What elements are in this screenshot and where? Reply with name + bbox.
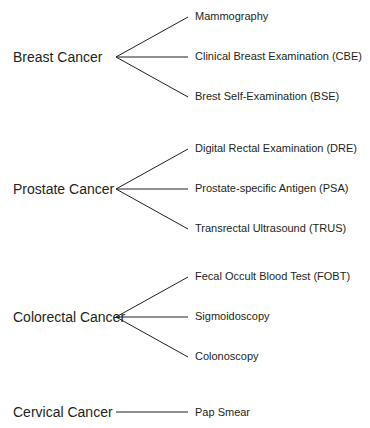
test-label: Clinical Breast Examination (CBE) — [195, 50, 362, 63]
category-label: Breast Cancer — [13, 49, 102, 65]
test-label: Digital Rectal Examination (DRE) — [195, 142, 357, 155]
category-label: Colorectal Cancer — [13, 309, 125, 325]
test-label: Mammography — [195, 10, 268, 23]
test-label: Prostate-specific Antigen (PSA) — [195, 182, 348, 195]
test-label: Pap Smear — [195, 406, 250, 419]
test-label: Transrectal Ultrasound (TRUS) — [195, 222, 346, 235]
category-label: Prostate Cancer — [13, 181, 114, 197]
category-label: Cervical Cancer — [13, 404, 113, 420]
test-label: Colonoscopy — [195, 350, 259, 363]
test-label: Brest Self-Examination (BSE) — [195, 90, 339, 103]
test-label: Sigmoidoscopy — [195, 310, 270, 323]
test-label: Fecal Occult Blood Test (FOBT) — [195, 270, 350, 283]
